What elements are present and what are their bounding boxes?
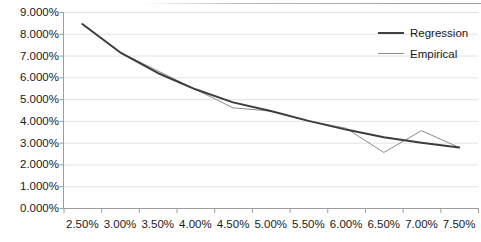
x-axis-tick-label: 4.50%: [217, 218, 250, 230]
x-axis-tick-label: 5.00%: [254, 218, 287, 230]
x-axis-tick-label: 3.00%: [104, 218, 137, 230]
legend-line-icon-regression: [378, 32, 404, 34]
x-axis-tick-label: 7.50%: [443, 218, 476, 230]
x-axis-tick-label: 6.00%: [330, 218, 363, 230]
x-axis-tick-label: 7.00%: [405, 218, 438, 230]
line-chart: 9.000%8.000%7.000%6.000%5.000%4.000%3.00…: [0, 0, 481, 242]
x-axis-tick-label: 3.50%: [141, 218, 174, 230]
x-axis-tick-label: 5.50%: [292, 218, 325, 230]
legend-label-regression: Regression: [410, 27, 468, 39]
legend-item-empirical[interactable]: Empirical: [378, 43, 478, 64]
x-axis-tick-label: 6.50%: [367, 218, 400, 230]
legend-item-regression[interactable]: Regression: [378, 22, 478, 43]
legend-label-empirical: Empirical: [410, 48, 457, 60]
x-axis-tick-label: 4.00%: [179, 218, 212, 230]
legend-line-icon-empirical: [378, 53, 404, 54]
chart-legend: Regression Empirical: [378, 22, 478, 64]
x-axis-tick-label: 2.50%: [66, 218, 99, 230]
